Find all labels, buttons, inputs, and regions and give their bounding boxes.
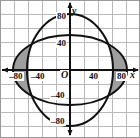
x-tick-label-80: 80: [116, 72, 127, 81]
coordinate-plot: [0, 0, 140, 138]
origin-label: O: [60, 70, 69, 80]
graph-figure: y x O 80 40 –40 –80 –80 –40 40 80: [0, 0, 140, 138]
y-tick-label-80: 80: [56, 12, 67, 21]
x-tick-label-neg40: –40: [30, 72, 46, 81]
y-tick-label-40: 40: [56, 39, 67, 48]
x-tick-label-neg80: –80: [8, 72, 24, 81]
y-tick-label-neg80: –80: [50, 117, 66, 126]
y-tick-label-neg40: –40: [50, 91, 66, 100]
x-axis-label: x: [130, 70, 135, 80]
x-tick-label-40: 40: [88, 72, 99, 81]
y-axis-label: y: [72, 6, 76, 16]
